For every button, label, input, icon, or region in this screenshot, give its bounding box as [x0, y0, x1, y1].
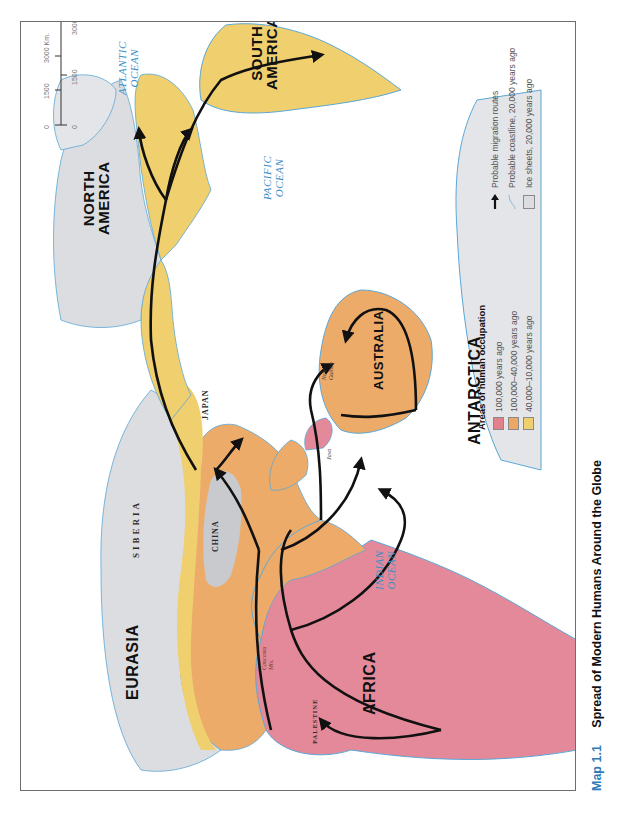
legend-label: 100,000 years ago [494, 342, 504, 412]
label-africa: AFRICA [361, 652, 379, 715]
ice-sheet-icon [523, 194, 535, 210]
legend-item: Probable migration routes [486, 48, 503, 210]
legend-label: 40,000–10,000 years ago [524, 316, 534, 412]
figure-title: Spread of Modern Humans Around the Globe [590, 460, 604, 728]
legend-item: Ice sheets, 20,000 years ago [520, 48, 537, 210]
southeast-asia-landmass [270, 440, 308, 490]
legend-item: 100,000–40,000 years ago [506, 305, 521, 430]
label-indian-ocean: INDIAN OCEAN [373, 550, 397, 590]
legend-label: 100,000–40,000 years ago [509, 311, 519, 412]
label-caucasus: Caucasus Mts. [261, 647, 275, 670]
occupation-legend: Areas of human occupation 100,000 years … [476, 305, 536, 430]
scale-mi-tick-0: 0 [71, 125, 78, 129]
label-new-guinea-line1: New [321, 362, 328, 380]
symbol-legend: Probable migration routes Probable coast… [486, 48, 537, 210]
label-palestine: PALESTINE [311, 699, 318, 744]
label-atlantic-ocean: ATLANTIC OCEAN [116, 41, 140, 95]
legend-item: 100,000 years ago [491, 305, 506, 430]
legend-label: Ice sheets, 20,000 years ago [524, 79, 534, 188]
scale-km-tick-1500: 1500 [43, 83, 50, 99]
legend-item: Probable coastline, 20,000 years ago [503, 48, 520, 210]
figure-number: Map 1.1 [590, 745, 604, 791]
label-eurasia: EURASIA [124, 624, 142, 700]
scale-mi-tick-1500: 1500 [71, 69, 78, 85]
occupation-legend-title: Areas of human occupation [476, 305, 487, 430]
label-pacific-ocean-line1: PACIFIC [261, 156, 273, 200]
label-south-america: SOUTH AMERICA [249, 21, 279, 90]
label-north-america-line1: NORTH [81, 162, 96, 236]
label-new-guinea-line2: Guinea [328, 362, 335, 380]
scale-km-tick-0: 0 [43, 125, 50, 129]
label-south-america-line2: AMERICA [264, 21, 279, 90]
label-japan: JAPAN [201, 389, 210, 420]
label-north-america-line2: AMERICA [96, 162, 111, 236]
label-china: CHINA [211, 520, 220, 552]
arrow-icon [489, 194, 501, 210]
coastline-icon [506, 194, 518, 210]
label-south-america-line1: SOUTH [249, 21, 264, 90]
swatch-40000-10000 [523, 417, 534, 430]
label-siberia: SIBERIA [131, 500, 141, 558]
scale-bar: 0 1500 3000 Km. 0 1500 3000 Mi. [31, 21, 91, 135]
swatch-100000 [493, 417, 504, 430]
label-atlantic-ocean-line1: ATLANTIC [116, 41, 128, 95]
scale-km-tick-3000: 3000 Km. [43, 33, 50, 63]
legend-label: Probable coastline, 20,000 years ago [507, 48, 517, 188]
south-america-landmass [200, 24, 401, 113]
figure-caption: Map 1.1 Spread of Modern Humans Around t… [590, 460, 604, 791]
swatch-100000-40000 [508, 417, 519, 430]
label-indian-ocean-line1: INDIAN [373, 550, 385, 590]
label-caucasus-line1: Caucasus [261, 647, 268, 670]
label-north-america: NORTH AMERICA [81, 162, 111, 236]
label-new-guinea: New Guinea [321, 362, 335, 380]
map-frame: AFRICA EURASIA AUSTRALIA NORTH AMERICA S… [20, 21, 576, 791]
legend-item: 40,000–10,000 years ago [521, 305, 536, 430]
legend-label: Probable migration routes [490, 91, 500, 188]
scale-mi-tick-3000: 3000 Mi. [71, 21, 78, 35]
label-australia: AUSTRALIA [371, 310, 386, 390]
label-indian-ocean-line2: OCEAN [385, 550, 397, 590]
rotated-map-page: AFRICA EURASIA AUSTRALIA NORTH AMERICA S… [0, 0, 621, 835]
label-atlantic-ocean-line2: OCEAN [128, 41, 140, 95]
label-java: Java [326, 449, 333, 460]
label-pacific-ocean-line2: OCEAN [273, 156, 285, 200]
label-pacific-ocean: PACIFIC OCEAN [261, 156, 285, 200]
label-caucasus-line2: Mts. [268, 647, 275, 670]
